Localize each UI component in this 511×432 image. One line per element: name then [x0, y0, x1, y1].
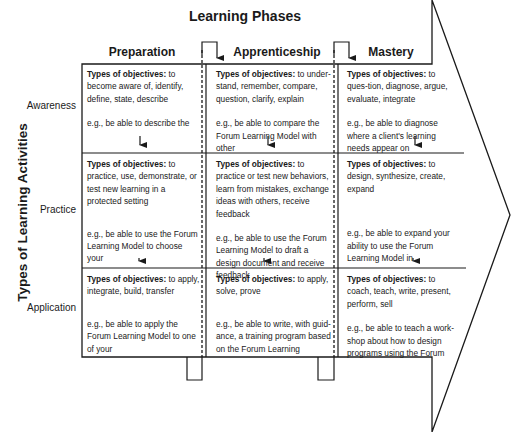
cell-application-preparation: Types of objectives: to apply, integrate… [87, 273, 201, 355]
example-text: e.g., be able to apply the Forum Learnin… [87, 318, 201, 355]
diagram-title: Learning Phases [0, 8, 490, 24]
cell-practice-apprenticeship: Types of objectives: to practice or test… [216, 158, 334, 282]
objectives-text: Types of objectives: to under-stand, rem… [216, 68, 332, 105]
phase-header-mastery: Mastery [350, 45, 432, 59]
phase-header-apprenticeship: Apprenticeship [218, 45, 336, 59]
objectives-text: Types of objectives: to design, synthesi… [347, 158, 459, 195]
cell-awareness-preparation: Types of objectives: to become aware of,… [87, 68, 199, 130]
objectives-text: Types of objectives: to apply, solve, pr… [216, 273, 332, 298]
example-text: e.g., be able to write, with guid-ance, … [216, 318, 332, 355]
row-label-awareness: Awareness [4, 100, 76, 111]
cell-awareness-apprenticeship: Types of objectives: to under-stand, rem… [216, 68, 332, 154]
cell-application-mastery: Types of objectives: to coach, teach, wr… [347, 273, 457, 359]
objectives-text: Types of objectives: to practice, use, d… [87, 158, 199, 208]
example-text: e.g., be able to compare the Forum Learn… [216, 117, 332, 154]
cell-practice-mastery: Types of objectives: to design, synthesi… [347, 158, 459, 264]
example-text: e.g., be able to expand your ability to … [347, 227, 459, 264]
example-text: e.g., be able to diagnose where a client… [347, 117, 455, 154]
cell-application-apprenticeship: Types of objectives: to apply, solve, pr… [216, 273, 332, 355]
example-text: e.g., be able to teach a work-shop about… [347, 322, 457, 359]
objectives-text: Types of objectives: to practice or test… [216, 158, 334, 220]
example-text: e.g., be able to use the Forum Learning … [87, 228, 199, 265]
objectives-text: Types of objectives: to ques-tion, diagn… [347, 68, 455, 105]
cell-practice-preparation: Types of objectives: to practice, use, d… [87, 158, 199, 265]
row-label-application: Application [4, 302, 76, 313]
objectives-text: Types of objectives: to coach, teach, wr… [347, 273, 457, 310]
row-label-practice: Practice [4, 204, 76, 215]
phase-header-preparation: Preparation [82, 45, 202, 59]
cell-awareness-mastery: Types of objectives: to ques-tion, diagn… [347, 68, 455, 154]
objectives-text: Types of objectives: to become aware of,… [87, 68, 199, 105]
objectives-text: Types of objectives: to apply, integrate… [87, 273, 201, 298]
example-text: e.g., be able to describe the [87, 117, 199, 129]
